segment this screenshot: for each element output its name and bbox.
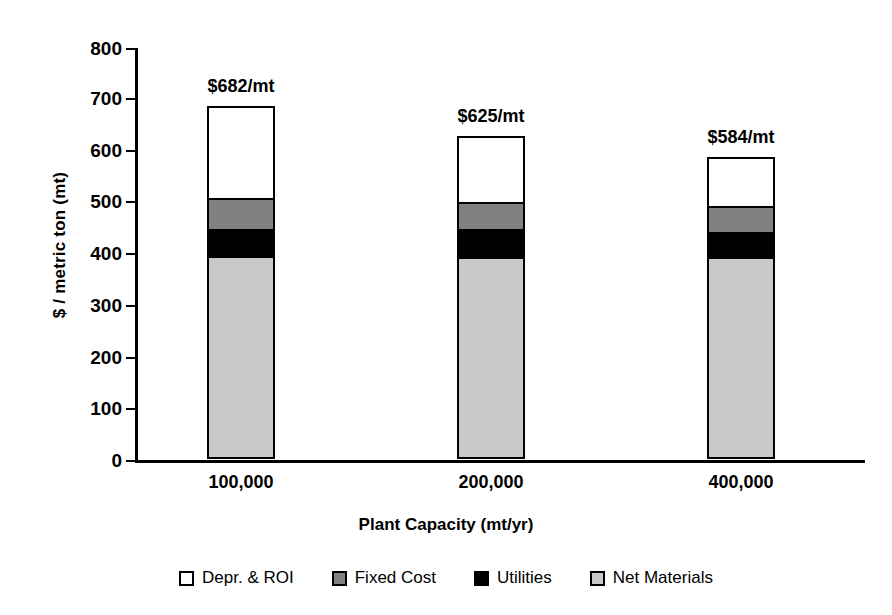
bar-400000[interactable]: $584/mt [707,157,775,459]
y-axis-line [135,48,138,462]
bar-200000[interactable]: $625/mt [457,136,525,459]
bar-total-label-200000: $625/mt [457,106,524,127]
bar-segment-fixed-cost-400000[interactable] [707,206,775,232]
y-axis-title: $ / metric ton (mt) [50,95,70,395]
legend-label-fixed-cost: Fixed Cost [355,568,436,588]
legend-item-depr-roi[interactable]: Depr. & ROI [179,568,294,588]
bar-segment-utilities-400000[interactable] [707,232,775,257]
plot-area: 0 100 200 300 400 500 600 700 [135,48,865,462]
x-axis-title: Plant Capacity (mt/yr) [0,515,892,535]
x-tick-label-400000: 400,000 [708,472,773,493]
bar-100000[interactable]: $682/mt [207,106,275,459]
legend-label-utilities: Utilities [497,568,552,588]
legend-swatch-icon-depr-roi [179,571,194,586]
bar-segment-depr-roi-100000[interactable] [207,106,275,198]
y-tick-label-0: 0 [111,451,122,470]
bar-total-label-400000: $584/mt [707,127,774,148]
legend-swatch-icon-net-materials [590,571,605,586]
bar-segment-depr-roi-200000[interactable] [457,136,525,202]
legend: Depr. & ROI Fixed Cost Utilities Net Mat… [0,568,892,588]
x-tick-label-200000: 200,000 [458,472,523,493]
y-tick-label-100: 100 [90,399,122,418]
x-tick-label-100000: 100,000 [208,472,273,493]
legend-label-depr-roi: Depr. & ROI [202,568,294,588]
bar-segment-depr-roi-400000[interactable] [707,157,775,206]
bar-segment-utilities-200000[interactable] [457,229,525,257]
stacked-bar-chart: $ / metric ton (mt) 0 100 200 300 400 50… [0,0,892,615]
legend-swatch-icon-utilities [474,571,489,586]
x-axis-line [135,460,865,463]
y-tick-label-600: 600 [90,140,122,159]
legend-item-fixed-cost[interactable]: Fixed Cost [332,568,436,588]
legend-swatch-icon-fixed-cost [332,571,347,586]
y-tick-label-400: 400 [90,244,122,263]
y-tick-label-800: 800 [90,39,122,58]
bar-segment-fixed-cost-200000[interactable] [457,202,525,229]
y-tick-label-700: 700 [90,88,122,107]
bar-segment-net-materials-400000[interactable] [707,257,775,459]
bar-segment-fixed-cost-100000[interactable] [207,198,275,229]
legend-item-net-materials[interactable]: Net Materials [590,568,713,588]
legend-item-utilities[interactable]: Utilities [474,568,552,588]
y-tick-label-500: 500 [90,192,122,211]
y-tick-label-300: 300 [90,295,122,314]
y-tick-label-200: 200 [90,347,122,366]
bar-total-label-100000: $682/mt [207,76,274,97]
bar-segment-utilities-100000[interactable] [207,229,275,256]
bar-segment-net-materials-100000[interactable] [207,256,275,459]
legend-label-net-materials: Net Materials [613,568,713,588]
bar-segment-net-materials-200000[interactable] [457,257,525,459]
